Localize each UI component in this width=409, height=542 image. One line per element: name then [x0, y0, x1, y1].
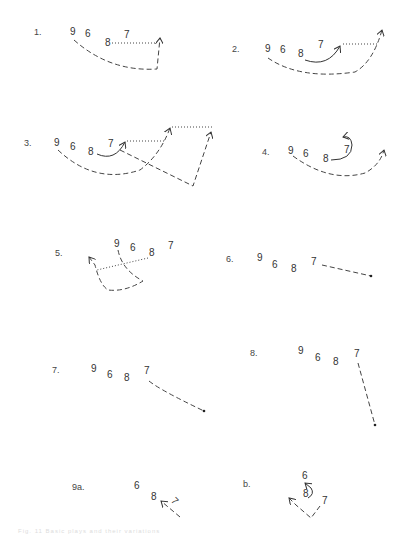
player-6: 6: [130, 242, 136, 253]
player-6: 6: [134, 480, 140, 491]
player-6: 6: [272, 259, 278, 270]
diagram-label: 4.: [262, 147, 270, 157]
pass-line: [97, 258, 148, 270]
player-9: 9: [54, 137, 60, 148]
player-8: 8: [149, 247, 155, 258]
player-8: 8: [151, 491, 157, 502]
player-9: 9: [265, 43, 271, 54]
player-6: 6: [107, 369, 113, 380]
diagram-8: 8. 9 6 8 7: [250, 345, 376, 426]
player-7: 7: [124, 29, 130, 40]
run-path: [74, 38, 160, 69]
diagram-label: 7.: [52, 365, 60, 375]
diagram-7: 7. 9 6 8 7: [52, 363, 205, 412]
player-6: 6: [303, 148, 309, 159]
player-8: 8: [124, 372, 130, 383]
player-8: 8: [298, 48, 304, 59]
diagram-label: 2.: [232, 44, 240, 54]
diagram-1: 1. 9 6 8 7: [34, 26, 160, 69]
run-path: [358, 363, 375, 425]
player-9: 9: [298, 345, 304, 356]
plays-diagram: 1. 9 6 8 7 2. 9 6 8 7 3. 9 6 8 7 4. 9 6 …: [0, 0, 409, 542]
player-8: 8: [105, 37, 111, 48]
player-8: 8: [303, 488, 309, 499]
diagram-label: 1.: [34, 27, 42, 37]
player-7: 7: [169, 495, 181, 507]
player-7: 7: [322, 495, 328, 506]
player-6: 6: [85, 28, 91, 39]
player-7: 7: [168, 240, 174, 251]
diagram-label: 6.: [226, 254, 234, 264]
player-8: 8: [88, 146, 94, 157]
diagram-label: 3.: [24, 138, 32, 148]
diagram-label: 5.: [55, 248, 63, 258]
end-point: [370, 275, 373, 278]
diagram-label: 8.: [250, 348, 258, 358]
player-8: 8: [323, 153, 329, 164]
player-7: 7: [144, 365, 150, 376]
player-8: 8: [333, 356, 339, 367]
player-9: 9: [70, 26, 76, 37]
diagram-9b: b. 6 8 7: [243, 470, 328, 518]
run-path: [289, 498, 320, 518]
player-8: 8: [291, 263, 297, 274]
player-7: 7: [354, 348, 360, 359]
run-path: [89, 250, 143, 290]
player-7: 7: [311, 256, 317, 267]
player-9: 9: [91, 363, 97, 374]
figure-caption: Fig. 11 Basic plays and their variations: [18, 528, 160, 534]
player-6: 6: [70, 141, 76, 152]
player-6: 6: [302, 470, 308, 481]
end-point: [203, 410, 206, 413]
diagram-4: 4. 9 6 8 7: [262, 137, 384, 176]
player-7: 7: [318, 39, 324, 50]
player-9: 9: [114, 238, 120, 249]
player-7: 7: [108, 138, 114, 149]
diagram-2: 2. 9 6 8 7: [232, 30, 382, 74]
diagram-label: 9a.: [72, 482, 85, 492]
run-path: [322, 265, 371, 276]
diagram-6: 6. 9 6 8 7: [226, 252, 372, 277]
diagram-label: b.: [243, 479, 251, 489]
player-6: 6: [280, 44, 286, 55]
player-9: 9: [257, 252, 263, 263]
diagram-5: 5. 9 6 8 7: [55, 238, 174, 290]
run-path: [149, 381, 204, 411]
diagram-9a: 9a. 6 8 7: [72, 480, 181, 517]
player-6: 6: [315, 352, 321, 363]
player-9: 9: [288, 145, 294, 156]
diagram-3: 3. 9 6 8 7: [24, 127, 212, 186]
run-path-7: [120, 132, 211, 186]
end-point: [374, 424, 377, 427]
